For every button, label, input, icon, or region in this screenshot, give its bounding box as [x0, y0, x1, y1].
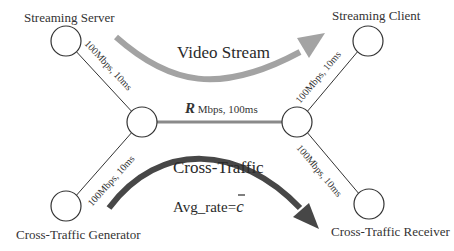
- node-left-router: [127, 107, 157, 137]
- bottleneck-rate-units: Mbps, 100ms: [195, 103, 258, 115]
- avg-rate-variable: c: [236, 197, 244, 216]
- label-link-generator: 100Mbps, 10ms: [85, 153, 136, 208]
- label-streaming-client: Streaming Client: [332, 8, 421, 23]
- label-avg-rate: Avg_rate=c: [173, 197, 244, 216]
- network-topology-diagram: Streaming Server Streaming Client Cross-…: [0, 0, 454, 251]
- node-cross-traffic-receiver: [354, 189, 384, 219]
- node-streaming-client: [353, 26, 383, 56]
- label-bottleneck-link: R Mbps, 100ms: [184, 100, 258, 116]
- label-video-stream: Video Stream: [177, 43, 270, 62]
- node-right-router: [282, 107, 312, 137]
- label-link-client: 100Mbps, 10ms: [293, 49, 343, 106]
- label-link-receiver: 100Mbps, 10ms: [294, 142, 344, 199]
- label-cross-traffic-generator: Cross-Traffic Generator: [16, 227, 141, 242]
- label-cross-traffic-receiver: Cross-Traffic Receiver: [331, 224, 450, 239]
- node-streaming-server: [51, 26, 81, 56]
- node-cross-traffic-generator: [51, 191, 81, 221]
- bottleneck-rate-variable: R: [184, 100, 195, 116]
- label-streaming-server: Streaming Server: [24, 10, 115, 25]
- label-cross-traffic: Cross-Traffic: [173, 158, 264, 177]
- avg-rate-prefix: Avg_rate=: [173, 199, 236, 215]
